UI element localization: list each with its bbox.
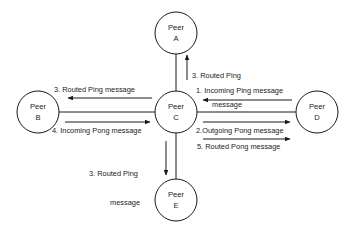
peer-a-label-line1: Peer: [168, 23, 185, 32]
peer-e-label-line1: Peer: [168, 190, 185, 199]
peer-b-label-line2: B: [35, 113, 40, 122]
peer-e-circle: [155, 179, 197, 221]
label-3-routed-ping-down: 3. Routed Ping message: [89, 150, 161, 226]
peer-c-label-line1: Peer: [168, 102, 185, 111]
label-3-down-line1: 3. Routed Ping: [89, 169, 161, 179]
peer-e-label-line2: E: [173, 201, 178, 210]
label-3-routed-ping-left: 3. Routed Ping message: [54, 85, 135, 95]
peer-c-label-line2: C: [173, 113, 179, 122]
peer-routing-diagram: Peer A Peer B Peer C Peer D Peer E 3. Ro…: [0, 0, 350, 226]
label-2-outgoing-pong: 2.Outgoing Pong message: [196, 126, 284, 136]
peer-d-label-line1: Peer: [309, 102, 326, 111]
peer-c-circle: [155, 91, 197, 133]
peer-a-circle: [155, 12, 197, 54]
peer-node-e[interactable]: Peer E: [155, 179, 197, 221]
label-3-down-line2: message: [89, 198, 161, 208]
diagram-canvas: Peer A Peer B Peer C Peer D Peer E: [0, 0, 350, 226]
peer-node-d[interactable]: Peer D: [296, 91, 338, 133]
label-3-up-line2: message: [192, 100, 262, 110]
peer-d-label-line2: D: [314, 113, 320, 122]
peer-node-c[interactable]: Peer C: [155, 91, 197, 133]
peer-node-a[interactable]: Peer A: [155, 12, 197, 54]
label-5-routed-pong: 5. Routed Pong message: [197, 142, 280, 152]
label-4-incoming-pong: 4. Incoming Pong message: [52, 126, 142, 136]
peer-b-label-line1: Peer: [30, 102, 47, 111]
label-3-up-line1: 3. Routed Ping: [192, 71, 262, 81]
peer-d-circle: [296, 91, 338, 133]
label-1-incoming-ping: 1. Incoming Ping message: [196, 86, 283, 96]
